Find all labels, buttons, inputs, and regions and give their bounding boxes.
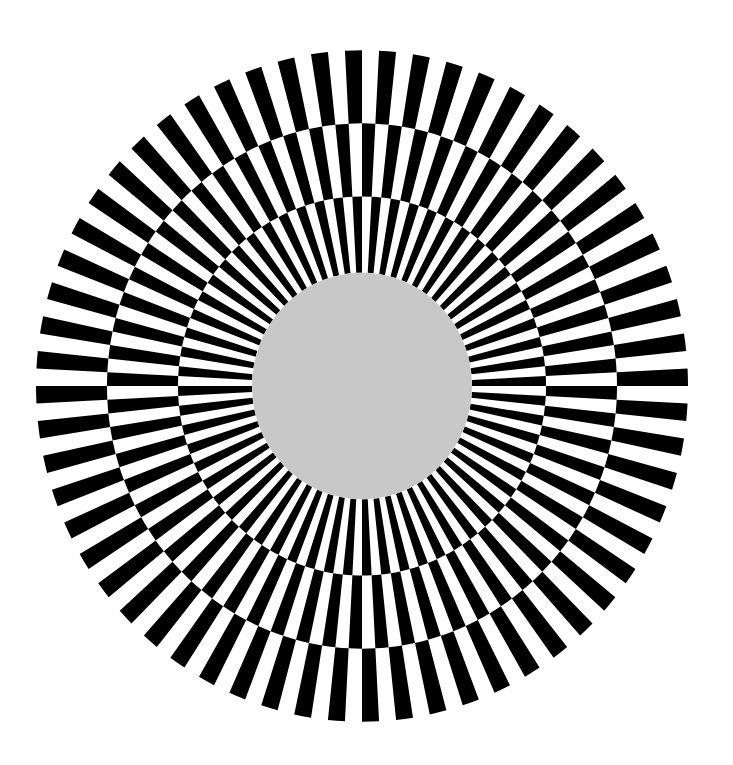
- radial-pattern: [0, 0, 733, 765]
- center-disc: [252, 273, 472, 500]
